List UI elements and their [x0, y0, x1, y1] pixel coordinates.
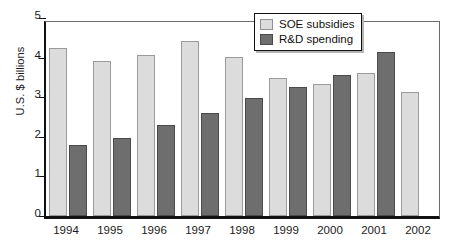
y-tick-label: 0: [35, 208, 41, 220]
bar-group-1997: [178, 22, 222, 216]
plot-area: 012345: [44, 21, 440, 219]
bar-group-2000: [310, 22, 354, 216]
bar-soe-subsidies-2000: [313, 84, 332, 216]
bar-rnd-spending-1995: [113, 138, 132, 216]
bar-rnd-spending-2000: [333, 75, 352, 216]
bar-soe-subsidies-2001: [357, 73, 376, 216]
y-tick-label: 1: [35, 168, 41, 180]
bar-soe-subsidies-1994: [49, 48, 68, 216]
bar-rnd-spending-1996: [157, 125, 176, 216]
bar-group-1995: [90, 22, 134, 216]
x-axis-labels: 199419951996199719981999200020012002: [44, 224, 440, 244]
legend-label-soe: SOE subsidies: [279, 19, 354, 31]
legend-item-soe-subsidies: SOE subsidies: [260, 17, 354, 32]
x-tick-label-1996: 1996: [132, 224, 176, 236]
bar-soe-subsidies-1995: [93, 61, 112, 216]
y-tick-label: 3: [35, 89, 41, 101]
y-tick-label: 4: [35, 50, 41, 62]
bar-soe-subsidies-1999: [269, 78, 288, 216]
x-tick-label-1998: 1998: [220, 224, 264, 236]
bar-group-1996: [134, 22, 178, 216]
bar-soe-subsidies-1998: [225, 57, 244, 216]
bar-rnd-spending-1997: [201, 113, 220, 216]
x-tick-label-1997: 1997: [176, 224, 220, 236]
bar-series-container: [46, 22, 439, 216]
bar-soe-subsidies-2002: [401, 92, 420, 216]
legend-swatch-icon-soe: [260, 19, 273, 30]
bar-group-1994: [46, 22, 90, 216]
bar-rnd-spending-2001: [377, 52, 396, 216]
bar-soe-subsidies-1996: [137, 55, 156, 216]
y-tick-label: 5: [35, 10, 41, 22]
legend-swatch-icon-rnd: [260, 34, 273, 45]
y-axis-title: U.S. $ billions: [14, 21, 26, 141]
x-tick-label-1999: 1999: [264, 224, 308, 236]
legend-item-rnd-spending: R&D spending: [260, 32, 354, 47]
x-tick-label-1994: 1994: [44, 224, 88, 236]
bar-group-1998: [222, 22, 266, 216]
bar-rnd-spending-1994: [69, 145, 88, 216]
bar-group-1999: [266, 22, 310, 216]
bar-rnd-spending-1998: [245, 98, 264, 216]
bar-group-2002: [398, 22, 442, 216]
bar-rnd-spending-1999: [289, 87, 308, 216]
y-tick-label: 2: [35, 129, 41, 141]
x-tick-label-2001: 2001: [352, 224, 396, 236]
x-tick-label-1995: 1995: [88, 224, 132, 236]
bar-group-2001: [354, 22, 398, 216]
x-tick-label-2000: 2000: [308, 224, 352, 236]
bar-soe-subsidies-1997: [181, 41, 200, 216]
bar-chart-figure: U.S. $ billions 012345 19941995199619971…: [0, 0, 459, 251]
chart-legend: SOE subsidies R&D spending: [254, 13, 362, 51]
x-tick-label-2002: 2002: [396, 224, 440, 236]
legend-label-rnd: R&D spending: [279, 34, 353, 46]
